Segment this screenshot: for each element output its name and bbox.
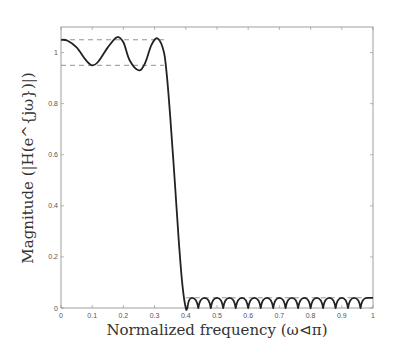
x-tick-label: 0 bbox=[59, 312, 63, 319]
plot-frame bbox=[61, 27, 373, 308]
x-tick-label: 0.1 bbox=[87, 312, 97, 319]
x-tick-label: 0.6 bbox=[243, 312, 253, 319]
x-tick-label: 0.7 bbox=[275, 312, 285, 319]
y-tick-label: 1 bbox=[54, 49, 58, 56]
y-tick-label: 0.4 bbox=[48, 202, 58, 209]
x-tick-label: 0.9 bbox=[337, 312, 347, 319]
x-tick-label: 1 bbox=[371, 312, 375, 319]
x-tick-label: 0.5 bbox=[212, 312, 222, 319]
x-tick-label: 0.3 bbox=[150, 312, 160, 319]
x-tick-label: 0.8 bbox=[306, 312, 316, 319]
x-tick-label: 0.4 bbox=[181, 312, 191, 319]
y-tick-label: 0 bbox=[54, 305, 58, 312]
y-axis-label: Magnitude (|H(e^{jω})|) bbox=[19, 72, 37, 263]
plot-area: 00.10.20.30.40.50.60.70.80.91 00.20.40.6… bbox=[48, 27, 375, 319]
y-tick-label: 0.6 bbox=[48, 151, 58, 158]
x-axis-label: Normalized frequency (ω⊲π) bbox=[106, 321, 327, 339]
y-tick-label: 0.8 bbox=[48, 100, 58, 107]
y-tick-label: 0.2 bbox=[48, 253, 58, 260]
magnitude-response-chart: 00.10.20.30.40.50.60.70.80.91 00.20.40.6… bbox=[0, 0, 395, 362]
x-tick-label: 0.2 bbox=[119, 312, 129, 319]
